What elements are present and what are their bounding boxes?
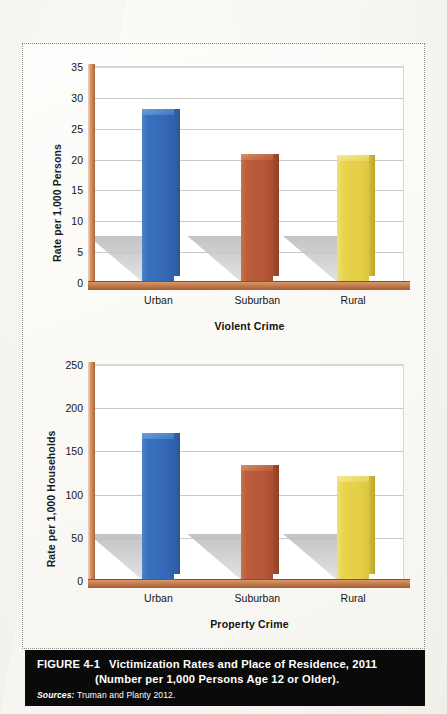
bar-front-face [241, 160, 273, 282]
figure-number-label: FIGURE 4-1 [37, 658, 100, 670]
figure-frame: Rate per 1,000 Persons 05101520253035 Ur… [22, 43, 425, 649]
y-axis-tick-label: 200 [65, 402, 83, 414]
x-axis-base-property [88, 580, 410, 588]
bar-rural[interactable] [337, 476, 375, 580]
bar-front-face [142, 115, 174, 282]
bar-side-face [369, 155, 375, 276]
bar-side-face [174, 433, 180, 574]
bar-shadow [283, 236, 337, 282]
y-axis-tick-label: 25 [71, 123, 83, 135]
y-axis-tick-label: 20 [71, 154, 83, 166]
bar-shadow [88, 534, 142, 580]
gridline [95, 129, 403, 130]
y-axis-title-violent: Rate per 1,000 Persons [51, 113, 63, 293]
bar-side-face [273, 465, 279, 574]
bar-shadow [187, 236, 241, 282]
x-axis-title-violent: Violent Crime [95, 320, 404, 332]
y-axis-tick-label: 30 [71, 92, 83, 104]
gridline [95, 365, 403, 366]
gridline [95, 408, 403, 409]
bar-front-face [337, 161, 369, 282]
gridline [95, 98, 403, 99]
y-axis-tick-label: 250 [65, 359, 83, 371]
bar-front-face [142, 439, 174, 580]
bar-shadow [187, 534, 241, 580]
category-label-urban: Urban [144, 294, 173, 306]
gridline [95, 67, 403, 68]
figure-caption-band: FIGURE 4-1Victimization Rates and Place … [25, 650, 425, 706]
bar-suburban[interactable] [241, 154, 279, 282]
bar-front-face [241, 471, 273, 580]
y-axis-post-violent [88, 64, 95, 285]
plot-area-violent: 05101520253035 [95, 66, 404, 282]
chart-violent-crime: Rate per 1,000 Persons 05101520253035 Ur… [23, 58, 426, 348]
bar-urban[interactable] [142, 433, 180, 580]
bar-side-face [273, 154, 279, 276]
bar-suburban[interactable] [241, 465, 279, 580]
caption-line-two: (Number per 1,000 Persons Age 12 or Olde… [37, 672, 415, 687]
caption-line-one: FIGURE 4-1Victimization Rates and Place … [37, 657, 415, 672]
x-axis-base-violent [88, 282, 410, 290]
bar-side-face [369, 476, 375, 574]
plot-area-property: 050100150200250 [95, 364, 404, 580]
source-label: Sources: [37, 690, 75, 700]
bar-urban[interactable] [142, 109, 180, 282]
figure-source-note: Sources: Truman and Planty 2012. [37, 689, 415, 701]
bar-shadow [283, 534, 337, 580]
category-label-suburban: Suburban [235, 294, 281, 306]
y-axis-tick-label: 50 [71, 532, 83, 544]
bar-side-face [174, 109, 180, 276]
bar-front-face [337, 482, 369, 580]
category-label-urban: Urban [144, 592, 173, 604]
category-label-suburban: Suburban [235, 592, 281, 604]
y-axis-tick-label: 15 [71, 184, 83, 196]
y-axis-post-property [88, 362, 95, 583]
chart-property-crime: Rate per 1,000 Households 05010015020025… [23, 356, 426, 641]
y-axis-tick-label: 10 [71, 215, 83, 227]
source-citation: Truman and Planty 2012. [77, 690, 175, 700]
gridline [95, 451, 403, 452]
y-axis-tick-label: 5 [77, 246, 83, 258]
category-label-rural: Rural [341, 592, 366, 604]
y-axis-tick-label: 100 [65, 489, 83, 501]
bar-rural[interactable] [337, 155, 375, 282]
x-axis-title-property: Property Crime [95, 618, 404, 630]
y-axis-tick-label: 35 [71, 61, 83, 73]
y-axis-tick-label: 0 [77, 277, 83, 289]
category-label-rural: Rural [341, 294, 366, 306]
y-axis-tick-label: 0 [77, 575, 83, 587]
caption-title-text: Victimization Rates and Place of Residen… [109, 658, 377, 670]
y-axis-title-property: Rate per 1,000 Households [45, 409, 57, 589]
bar-shadow [88, 236, 142, 282]
y-axis-tick-label: 150 [65, 445, 83, 457]
